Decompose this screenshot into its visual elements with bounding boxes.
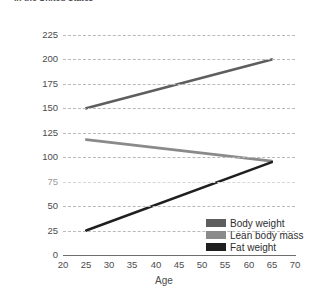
legend-swatch-body-weight bbox=[206, 219, 226, 227]
y-tick-125: 125 bbox=[18, 128, 58, 138]
chart-title-clipped: in the United States bbox=[14, 0, 164, 5]
legend-label-lean-body-mass: Lean body mass bbox=[230, 230, 303, 241]
y-tick-175: 175 bbox=[18, 79, 58, 89]
y-tick-75: 75 bbox=[18, 177, 58, 187]
chart-title-text: in the United States bbox=[14, 0, 93, 3]
x-tick-65: 65 bbox=[261, 259, 283, 270]
legend-swatch-fat-weight bbox=[206, 243, 226, 251]
x-tick-25: 25 bbox=[75, 259, 97, 270]
gridline-50 bbox=[63, 206, 295, 207]
legend-item-fat-weight[interactable]: Fat weight bbox=[206, 241, 303, 253]
chart-legend: Body weight Lean body mass Fat weight bbox=[206, 217, 303, 253]
gridline-225 bbox=[63, 35, 295, 36]
x-axis-title: Age bbox=[0, 275, 328, 286]
legend-item-lean-body-mass[interactable]: Lean body mass bbox=[206, 229, 303, 241]
legend-swatch-lean-body-mass bbox=[206, 231, 226, 239]
x-tick-70: 70 bbox=[284, 259, 306, 270]
x-axis-line bbox=[63, 255, 296, 256]
y-tick-225: 225 bbox=[18, 30, 58, 40]
x-tick-45: 45 bbox=[168, 259, 190, 270]
legend-label-fat-weight: Fat weight bbox=[230, 242, 276, 253]
x-tick-40: 40 bbox=[145, 259, 167, 270]
gridline-175 bbox=[63, 84, 295, 85]
y-tick-25: 25 bbox=[18, 226, 58, 236]
legend-label-body-weight: Body weight bbox=[230, 218, 284, 229]
gridline-150 bbox=[63, 108, 295, 109]
y-tick-50: 50 bbox=[18, 201, 58, 211]
gridline-200 bbox=[63, 59, 295, 60]
x-tick-50: 50 bbox=[191, 259, 213, 270]
x-tick-30: 30 bbox=[98, 259, 120, 270]
gridline-100 bbox=[63, 157, 295, 158]
y-tick-150: 150 bbox=[18, 103, 58, 113]
x-tick-60: 60 bbox=[238, 259, 260, 270]
gridline-125 bbox=[63, 133, 295, 134]
x-tick-20: 20 bbox=[52, 259, 74, 270]
x-tick-35: 35 bbox=[121, 259, 143, 270]
legend-item-body-weight[interactable]: Body weight bbox=[206, 217, 303, 229]
y-tick-100: 100 bbox=[18, 152, 58, 162]
gridline-75 bbox=[63, 182, 295, 183]
x-tick-55: 55 bbox=[214, 259, 236, 270]
y-tick-200: 200 bbox=[18, 54, 58, 64]
